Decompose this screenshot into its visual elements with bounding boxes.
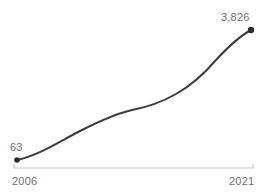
end-point-marker — [248, 27, 254, 33]
x-axis-tick-label-start: 2006 — [12, 175, 37, 187]
x-axis-line — [14, 164, 253, 168]
line-chart: 63 3,826 2006 2021 — [0, 0, 268, 196]
end-value-label: 3,826 — [221, 11, 250, 23]
start-point-marker — [14, 157, 20, 163]
start-value-label: 63 — [10, 141, 23, 153]
x-axis-tick-label-end: 2021 — [229, 175, 254, 187]
series-line-path — [17, 30, 251, 160]
chart-plot-area — [0, 0, 268, 196]
